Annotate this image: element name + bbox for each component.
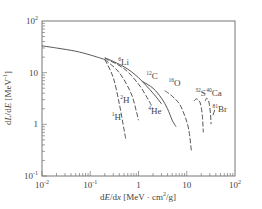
curve-common bbox=[42, 46, 105, 60]
curve-81Br bbox=[213, 110, 215, 115]
y-tick-label: 10 bbox=[29, 68, 39, 78]
x-axis-title: dE/dx [MeV · cm2/g] bbox=[100, 191, 176, 202]
ion-label-2H: 2H bbox=[120, 94, 130, 105]
x-tick-label: 10-2 bbox=[35, 179, 49, 190]
x-tick-label: 10 bbox=[182, 180, 192, 190]
y-axis-title: dL/dE [MeV-1] bbox=[2, 71, 13, 125]
ion-label-32S: 32S bbox=[195, 87, 206, 98]
curve-16O bbox=[165, 91, 192, 152]
ion-label-4He: 4He bbox=[148, 105, 161, 116]
ion-label-40Ca: 40Ca bbox=[206, 87, 222, 98]
x-tick-label: 10-1 bbox=[83, 179, 97, 190]
dl-de-vs-de-dx-chart: 10-210-111010210210110-1 1H2H4He6Li12C16… bbox=[0, 0, 262, 209]
curve-40Ca bbox=[205, 98, 211, 124]
curve-12C bbox=[142, 81, 176, 126]
y-tick-label: 102 bbox=[26, 15, 38, 26]
y-tick-label: 1 bbox=[34, 119, 39, 129]
curve-32S bbox=[194, 99, 204, 132]
ion-label-12C: 12C bbox=[146, 70, 158, 81]
x-tick-label: 102 bbox=[229, 179, 241, 190]
x-tick-label: 1 bbox=[136, 180, 141, 190]
ion-label-81Br: 81Br bbox=[212, 103, 227, 114]
ion-label-1H: 1H bbox=[112, 111, 122, 122]
ion-label-16O: 16O bbox=[169, 77, 182, 88]
axis-ticks: 10-210-111010210210110-1 bbox=[24, 15, 241, 190]
